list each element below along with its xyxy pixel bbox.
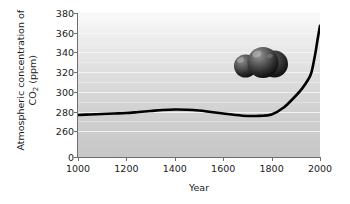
x-tick-mark-1600 <box>223 157 224 161</box>
co2-molecule-icon <box>230 39 294 87</box>
y-tick-mark-280 <box>74 112 78 113</box>
y-axis-title-line1: Atmospheric concentration of <box>15 10 27 151</box>
y-axis-title: Atmospheric concentration of CO2 (ppm) <box>8 0 48 160</box>
y-tick-label-0: 0 <box>46 152 74 163</box>
y-tick-label-340: 340 <box>46 47 74 58</box>
x-axis-title: Year <box>78 182 320 193</box>
x-tick-label-1600: 1600 <box>211 163 235 174</box>
y-tick-label-260: 260 <box>46 126 74 137</box>
y-axis-title-line2: CO2 (ppm) <box>26 10 41 151</box>
y-tick-mark-260 <box>74 131 78 132</box>
y-tick-label-360: 360 <box>46 27 74 38</box>
x-tick-label-1000: 1000 <box>66 163 90 174</box>
x-tick-mark-1200 <box>126 157 127 161</box>
x-tick-label-1800: 1800 <box>260 163 284 174</box>
x-tick-mark-1800 <box>272 157 273 161</box>
x-tick-mark-1400 <box>175 157 176 161</box>
molecule-sphere-center <box>248 47 279 78</box>
x-tick-mark-2000 <box>320 157 321 161</box>
x-tick-mark-1000 <box>78 157 79 161</box>
y-tick-label-280: 280 <box>46 106 74 117</box>
x-tick-label-1400: 1400 <box>163 163 187 174</box>
co2-concentration-chart: Atmospheric concentration of CO2 (ppm) 3… <box>0 0 350 204</box>
x-axis-line <box>77 157 321 158</box>
y-tick-label-300: 300 <box>46 86 74 97</box>
y-tick-label-380: 380 <box>46 8 74 19</box>
y-tick-mark-380 <box>74 13 78 14</box>
y-tick-mark-340 <box>74 52 78 53</box>
y-tick-mark-320 <box>74 72 78 73</box>
y-tick-mark-360 <box>74 33 78 34</box>
x-tick-label-2000: 2000 <box>308 163 332 174</box>
y-axis-title-co: CO <box>26 91 37 105</box>
y-axis-title-subscript: 2 <box>31 87 39 91</box>
y-axis-title-units: (ppm) <box>26 55 37 87</box>
x-tick-label-1200: 1200 <box>114 163 138 174</box>
y-tick-mark-300 <box>74 92 78 93</box>
y-tick-label-320: 320 <box>46 67 74 78</box>
plot-area <box>78 13 320 157</box>
